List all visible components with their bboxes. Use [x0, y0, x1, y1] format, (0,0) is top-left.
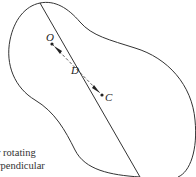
arrow-toward-c-icon	[92, 85, 100, 93]
caption-line-2: rpendicular	[0, 160, 45, 171]
arrow-toward-o-icon	[54, 46, 62, 54]
caption-line-1: r rotating	[0, 147, 36, 158]
label-o: O	[46, 31, 54, 43]
body-outline	[9, 2, 196, 177]
point-c	[100, 93, 103, 96]
label-c: C	[105, 91, 112, 103]
label-d: D	[71, 64, 79, 76]
